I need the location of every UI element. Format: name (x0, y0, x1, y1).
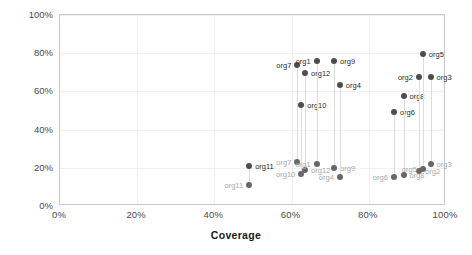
data-point-label: org12 (311, 69, 330, 78)
gridline-vertical (214, 15, 215, 204)
data-point-label: org4 (346, 80, 361, 89)
point-connector-line (431, 77, 432, 164)
point-connector-line (419, 77, 420, 171)
y-tick-label: 80% (7, 47, 53, 58)
point-connector-line (394, 112, 395, 177)
point-connector-line (305, 73, 306, 169)
data-point[interactable] (401, 172, 407, 178)
data-point-label: org7 (276, 60, 291, 69)
scatter-chart: Efficiency Coverage 0%20%40%60%80%100% 0… (0, 0, 472, 255)
y-tick-label: 40% (7, 123, 53, 134)
x-tick-label: 80% (358, 209, 378, 220)
x-tick-label: 40% (204, 209, 224, 220)
data-point[interactable] (391, 109, 397, 115)
data-point[interactable] (391, 174, 397, 180)
data-point[interactable] (331, 165, 337, 171)
data-point-label: org4 (319, 173, 334, 182)
y-tick-label: 0% (7, 200, 53, 211)
data-point-label: org7 (276, 158, 291, 167)
data-point-label: org10 (276, 169, 295, 178)
data-point-label: org11 (224, 180, 243, 189)
data-point-label: org5 (402, 164, 417, 173)
point-connector-line (340, 85, 341, 178)
data-point[interactable] (246, 182, 252, 188)
data-point[interactable] (331, 58, 337, 64)
data-point[interactable] (428, 74, 434, 80)
data-point-label: org11 (255, 161, 274, 170)
gridline-horizontal (60, 91, 444, 92)
point-connector-line (334, 61, 335, 168)
gridline-vertical (137, 15, 138, 204)
data-point-label: org1 (296, 56, 311, 65)
point-connector-line (317, 61, 318, 164)
plot-area: org11org11org7org7org10org10org12org12or… (59, 14, 445, 205)
data-point[interactable] (337, 82, 343, 88)
data-point[interactable] (428, 161, 434, 167)
data-point[interactable] (298, 102, 304, 108)
data-point[interactable] (302, 70, 308, 76)
y-tick-label: 100% (7, 9, 53, 20)
data-point-label: org6 (400, 108, 415, 117)
data-point-label: org3 (437, 73, 452, 82)
data-point-label: org2 (398, 73, 413, 82)
gridline-vertical (369, 15, 370, 204)
data-point-label: org9 (340, 163, 355, 172)
data-point-label: org1 (296, 159, 311, 168)
data-point[interactable] (337, 174, 343, 180)
y-tick-label: 20% (7, 161, 53, 172)
data-point[interactable] (420, 166, 426, 172)
point-connector-line (297, 65, 298, 162)
gridline-horizontal (60, 53, 444, 54)
gridline-horizontal (60, 130, 444, 131)
y-tick-label: 60% (7, 85, 53, 96)
data-point[interactable] (246, 163, 252, 169)
data-point[interactable] (416, 74, 422, 80)
data-point-label: org3 (437, 159, 452, 168)
gridline-horizontal (60, 168, 444, 169)
x-tick-label: 60% (281, 209, 301, 220)
data-point-label: org5 (429, 50, 444, 59)
data-point-label: org9 (340, 56, 355, 65)
x-tick-label: 20% (126, 209, 146, 220)
data-point[interactable] (420, 51, 426, 57)
x-tick-label: 0% (52, 209, 66, 220)
x-tick-label: 100% (432, 209, 457, 220)
gridline-horizontal (60, 15, 444, 16)
data-point[interactable] (401, 93, 407, 99)
data-point[interactable] (314, 58, 320, 64)
point-connector-line (423, 54, 424, 169)
data-point-label: org6 (373, 173, 388, 182)
x-axis-label: Coverage (0, 229, 472, 241)
data-point[interactable] (314, 161, 320, 167)
